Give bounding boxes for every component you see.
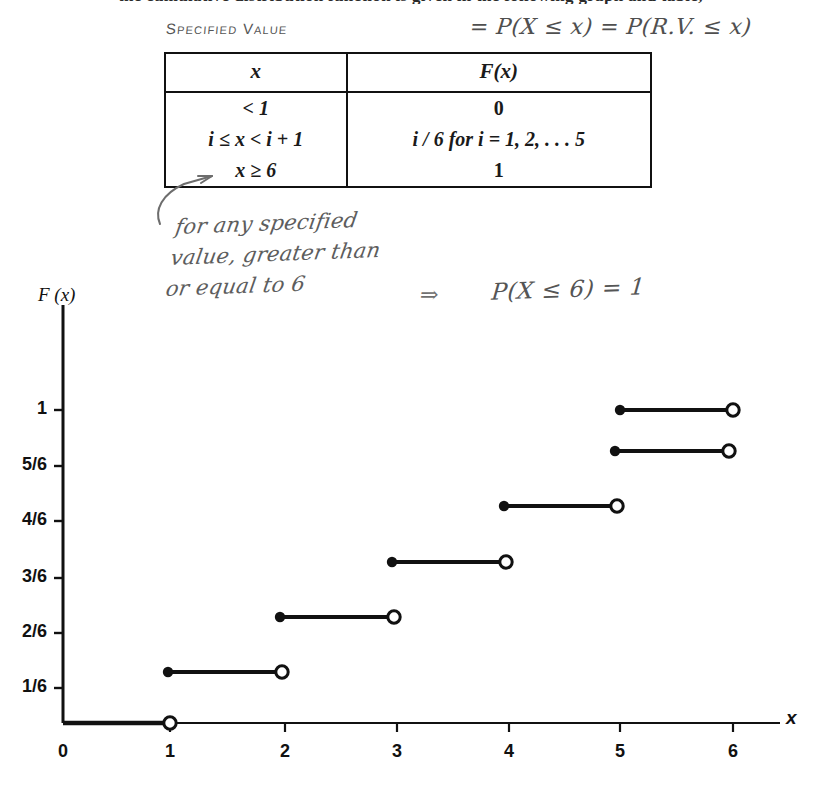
x-tick-label: 3: [382, 741, 412, 762]
open-endpoint-6: [727, 404, 739, 416]
x-tick-label: 4: [494, 741, 524, 762]
plot-canvas: [0, 0, 819, 787]
y-tick-label: 3/6: [1, 566, 47, 587]
closed-endpoint-1: [163, 667, 173, 677]
open-endpoint-4: [611, 500, 623, 512]
open-endpoint-1: [276, 666, 288, 678]
cdf-step-plot: F (x) x 1/62/63/64/65/61 0123456: [0, 0, 819, 787]
y-tick-label: 1: [1, 398, 47, 419]
open-endpoint-3: [500, 556, 512, 568]
x-tick-label: 6: [718, 741, 748, 762]
closed-endpoint-6: [615, 405, 625, 415]
y-tick-label: 4/6: [1, 509, 47, 530]
closed-endpoint-2: [275, 612, 285, 622]
closed-endpoint-3: [387, 557, 397, 567]
x-tick-label: 5: [605, 741, 635, 762]
open-endpoint-2: [388, 611, 400, 623]
open-endpoint-0: [164, 717, 176, 729]
open-endpoint-5: [723, 445, 735, 457]
figure-page: the cumulative distribution function is …: [0, 0, 819, 787]
x-tick-label: 2: [270, 741, 300, 762]
x-tick-label: 1: [155, 741, 185, 762]
y-tick-label: 5/6: [1, 454, 47, 475]
closed-endpoint-4: [499, 501, 509, 511]
y-tick-label: 1/6: [1, 676, 47, 697]
closed-endpoint-5: [610, 446, 620, 456]
x-tick-label: 0: [48, 741, 78, 762]
y-tick-label: 2/6: [1, 621, 47, 642]
